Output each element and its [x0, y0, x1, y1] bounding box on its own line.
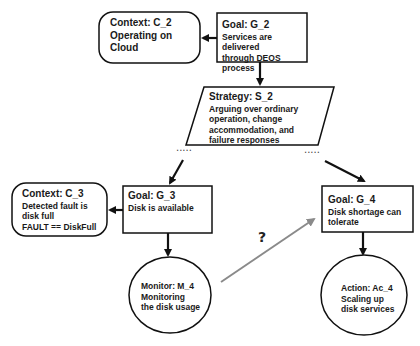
strategy-s2-body-line3: accommodation, and — [209, 125, 329, 136]
monitor-m4-body-line2: the disk usage — [141, 302, 211, 313]
edge-s2-to-g4 — [325, 161, 364, 181]
context-c3-body-line2: disk full — [22, 211, 106, 222]
monitor-m4-node: Monitor: M_4 Monitoring the disk usage — [141, 281, 211, 313]
context-c2-node: Context: C_2 Operating on Cloud — [110, 17, 196, 55]
action-ac4-title: Action: Ac_4 — [341, 283, 411, 294]
edge-s2-to-g3 — [170, 160, 183, 183]
action-ac4-body-line1: Scaling up — [341, 294, 411, 305]
context-c2-body: Operating on Cloud — [110, 30, 196, 55]
goal-g2-body-line1: Services are delivered — [222, 32, 307, 53]
action-ac4-body-line2: disk services — [341, 304, 411, 315]
goal-g4-title: Goal: G_4 — [328, 194, 412, 207]
context-c3-body-line1: Detected fault is — [22, 201, 106, 212]
goal-g2-title: Goal: G_2 — [222, 19, 307, 32]
edge-m4-to-g4-question — [221, 219, 314, 282]
action-ac4-node: Action: Ac_4 Scaling up disk services — [341, 283, 411, 315]
ellipsis-left: ..... — [176, 142, 192, 153]
context-c3-body-line3: FAULT == DiskFull — [22, 222, 106, 233]
strategy-s2-body-line2: operation, change — [209, 114, 329, 125]
goal-g4-node: Goal: G_4 Disk shortage can tolerate — [328, 194, 412, 228]
goal-g2-body-line2: through DEOS process — [222, 53, 307, 74]
ellipsis-right: ..... — [304, 144, 320, 155]
question-mark-label: ? — [258, 229, 266, 245]
goal-g3-body: Disk is available — [128, 203, 210, 214]
strategy-s2-body-line1: Arguing over ordinary — [209, 104, 329, 115]
context-c3-node: Context: C_3 Detected fault is disk full… — [22, 188, 106, 232]
context-c3-title: Context: C_3 — [22, 188, 106, 201]
goal-g4-body-line1: Disk shortage can — [328, 207, 412, 218]
strategy-s2-title: Strategy: S_2 — [209, 91, 329, 104]
goal-g4-body-line2: tolerate — [328, 217, 412, 228]
strategy-s2-node: Strategy: S_2 Arguing over ordinary oper… — [209, 91, 329, 146]
monitor-m4-body-line1: Monitoring — [141, 292, 211, 303]
monitor-m4-title: Monitor: M_4 — [141, 281, 211, 292]
goal-g2-node: Goal: G_2 Services are delivered through… — [222, 19, 307, 74]
goal-g3-title: Goal: G_3 — [128, 190, 210, 203]
goal-g3-node: Goal: G_3 Disk is available — [128, 190, 210, 213]
context-c2-title: Context: C_2 — [110, 17, 196, 30]
